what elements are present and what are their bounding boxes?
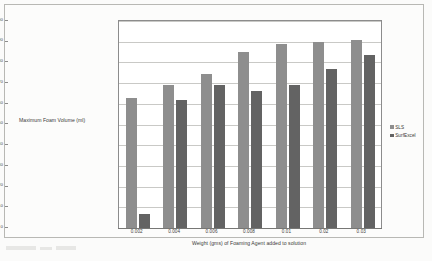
y-tick-mark <box>5 61 8 62</box>
y-tick-label: 90 <box>0 38 3 42</box>
bar-group <box>344 21 381 228</box>
y-tick-mark <box>5 123 8 124</box>
y-tick-label: 10 <box>0 204 3 208</box>
y-tick-mark <box>5 186 8 187</box>
square-marker-icon <box>390 125 394 129</box>
bar[interactable] <box>176 100 187 228</box>
bar[interactable] <box>238 52 249 228</box>
y-tick-mark <box>5 41 8 42</box>
y-tick-mark <box>5 165 8 166</box>
bar[interactable] <box>313 42 324 228</box>
scan-artifact <box>6 246 36 250</box>
y-tick-mark <box>5 144 8 145</box>
plot-area <box>118 20 382 228</box>
bar[interactable] <box>126 98 137 228</box>
bar[interactable] <box>201 74 212 228</box>
legend-item[interactable]: SLS <box>390 124 430 130</box>
bar-series-container <box>119 21 381 228</box>
y-tick-label: 60 <box>0 101 3 105</box>
y-tick-label: 70 <box>0 80 3 84</box>
square-marker-icon <box>390 134 394 138</box>
x-tick-label: 0.004 <box>155 229 193 234</box>
bar-group <box>306 21 343 228</box>
y-tick-mark <box>5 206 8 207</box>
y-tick-label: 80 <box>0 59 3 63</box>
x-axis-tick-labels: 0.0020.0040.0060.0080.010.020.03 <box>118 229 380 239</box>
legend-label: SLS <box>395 125 404 130</box>
x-tick-label: 0.03 <box>342 229 380 234</box>
y-tick-mark <box>5 20 8 21</box>
bar[interactable] <box>251 91 262 228</box>
bar[interactable] <box>326 69 337 228</box>
x-tick-label: 0.006 <box>193 229 231 234</box>
x-axis-title: Weight (gms) of Foaming Agent added to s… <box>118 240 380 246</box>
bar[interactable] <box>351 40 362 228</box>
x-tick-label: 0.008 <box>230 229 268 234</box>
bar-group <box>119 21 156 228</box>
bar[interactable] <box>214 85 225 228</box>
bar[interactable] <box>139 214 150 228</box>
scan-artifact <box>40 247 52 250</box>
x-tick-label: 0.002 <box>118 229 156 234</box>
bar[interactable] <box>289 85 300 228</box>
x-tick-label: 0.01 <box>267 229 305 234</box>
y-tick-label: 20 <box>0 183 3 187</box>
y-tick-label: 50 <box>0 121 3 125</box>
x-tick-label: 0.02 <box>305 229 343 234</box>
legend-label: SurfExcel <box>395 133 416 138</box>
y-tick-mark <box>5 103 8 104</box>
y-axis-title: Maximum Foam Volume (ml) <box>19 118 114 124</box>
scan-artifact <box>56 246 76 250</box>
bar-group <box>269 21 306 228</box>
bar[interactable] <box>163 85 174 228</box>
bar-group <box>231 21 268 228</box>
chart-legend: SLSSurfExcel <box>390 124 430 141</box>
document-page: Maximum Foam Volume (ml) 010203040506070… <box>0 0 432 261</box>
y-tick-mark <box>5 227 8 228</box>
y-tick-label: 100 <box>0 18 3 22</box>
y-tick-mark <box>5 82 8 83</box>
bar[interactable] <box>276 44 287 228</box>
legend-item[interactable]: SurfExcel <box>390 133 430 139</box>
bar-group <box>156 21 193 228</box>
bar[interactable] <box>364 55 375 228</box>
y-tick-label: 30 <box>0 163 3 167</box>
bar-group <box>194 21 231 228</box>
chart-object-frame: Maximum Foam Volume (ml) 010203040506070… <box>4 4 424 238</box>
y-tick-label: 40 <box>0 142 3 146</box>
y-tick-label: 0 <box>0 225 3 229</box>
